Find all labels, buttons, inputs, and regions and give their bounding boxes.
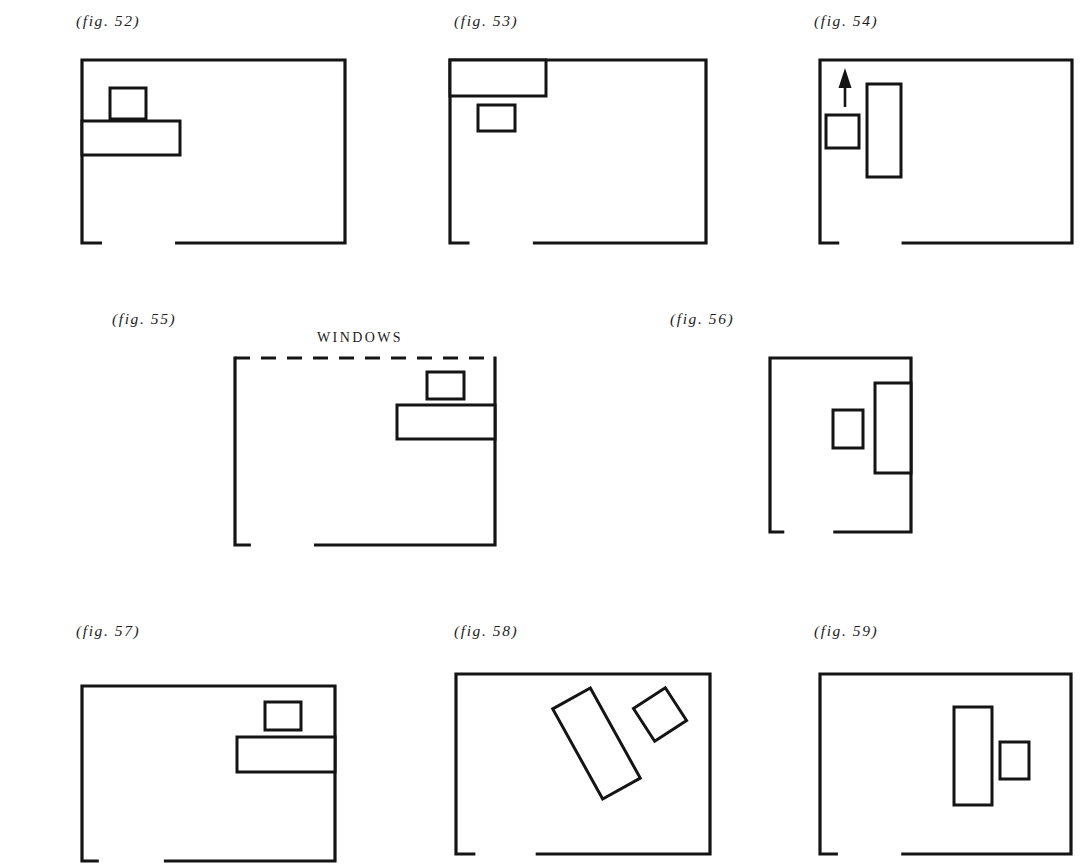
furniture-small-rect (110, 88, 146, 119)
figure-caption: (fig. 54) (814, 12, 878, 30)
furniture-small-rect (478, 105, 515, 131)
room-plan (760, 348, 921, 542)
room-plan (446, 664, 720, 864)
up-arrow-head (839, 68, 852, 88)
furniture-long-rect-on-right-wall (397, 405, 495, 439)
room-plan (810, 50, 1081, 253)
furniture-small-rect (833, 410, 863, 448)
room-plan (72, 676, 345, 867)
room-plan (225, 348, 505, 555)
furniture-small-rect (826, 115, 859, 148)
room-walls (820, 60, 1072, 243)
furniture-tilted-small-rect (633, 688, 686, 741)
figure-caption: (fig. 52) (76, 12, 140, 30)
furniture-tall-rect (867, 84, 901, 177)
furniture-small-rect (427, 372, 464, 399)
figure-sheet: (fig. 52)(fig. 53)(fig. 54)(fig. 55)WIND… (0, 0, 1081, 867)
room-plan (440, 50, 716, 253)
figure-caption: (fig. 59) (814, 622, 878, 640)
furniture-long-rect-on-right-wall (237, 737, 335, 772)
furniture-long-rect-on-left-wall (82, 121, 180, 155)
furniture-tall-rect-on-right-wall (875, 383, 911, 473)
figure-caption: (fig. 57) (76, 622, 140, 640)
figure-caption: (fig. 55) (112, 310, 176, 328)
room-plan (72, 50, 355, 253)
windows-label: WINDOWS (317, 330, 403, 346)
figure-caption: (fig. 53) (454, 12, 518, 30)
figure-caption: (fig. 56) (670, 310, 734, 328)
room-plan (810, 664, 1081, 864)
figure-caption: (fig. 58) (454, 622, 518, 640)
furniture-tall-rect (954, 707, 992, 805)
furniture-long-rect-in-corner (450, 60, 546, 96)
furniture-tilted-long-rect (553, 688, 641, 799)
room-walls (820, 674, 1071, 854)
furniture-small-rect (1000, 742, 1029, 779)
furniture-small-rect (265, 702, 301, 730)
